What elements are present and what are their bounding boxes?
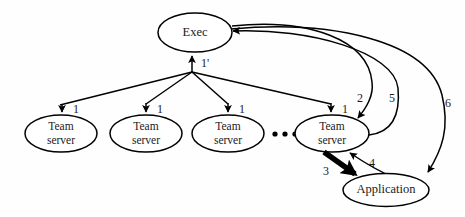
ellipsis-dot-1 — [272, 131, 277, 136]
node-team-server-3[interactable]: Team server — [192, 115, 264, 152]
edge-1-prime: 1' — [192, 56, 209, 72]
diagram-canvas: 6 5 2 1' 1 1 1 — [0, 0, 465, 217]
node-exec[interactable]: Exec — [158, 13, 232, 52]
edge-1-a-line — [60, 72, 192, 105]
team-server-2-label-line1: Team — [133, 120, 158, 132]
edge-label-3: 3 — [323, 164, 329, 178]
ellipsis-icon — [272, 131, 297, 136]
architecture-diagram: 6 5 2 1' 1 1 1 — [0, 0, 465, 217]
team-server-4-label-line2: server — [318, 134, 346, 146]
exec-label: Exec — [183, 25, 208, 39]
edge-label-2: 2 — [357, 91, 363, 105]
team-server-2-label-line2: server — [132, 134, 160, 146]
edge-1-d: 1 — [192, 72, 348, 116]
edge-label-1-prime: 1' — [201, 56, 209, 70]
node-team-server-4[interactable]: Team server — [295, 115, 369, 152]
node-team-server-1[interactable]: Team server — [25, 115, 97, 152]
edge-1-b-line — [146, 72, 192, 104]
edge-label-5: 5 — [389, 91, 395, 105]
node-team-server-2[interactable]: Team server — [110, 115, 182, 152]
team-server-3-label-line1: Team — [215, 120, 240, 132]
edge-label-1-a: 1 — [73, 102, 79, 116]
edge-2: 2 — [232, 24, 372, 118]
node-application[interactable]: Application — [343, 174, 429, 207]
edge-1-a: 1 — [60, 72, 192, 116]
edge-label-1-c: 1 — [239, 102, 245, 116]
team-server-1-label-line1: Team — [48, 120, 73, 132]
team-server-1-label-line2: server — [47, 134, 75, 146]
ellipsis-dot-2 — [282, 131, 287, 136]
team-server-4-label-line1: Team — [319, 120, 344, 132]
edge-label-1-d: 1 — [342, 102, 348, 116]
edge-3: 3 — [323, 152, 355, 178]
edge-label-6: 6 — [445, 96, 451, 110]
team-server-3-label-line2: server — [214, 134, 242, 146]
edge-2-path — [232, 24, 372, 118]
edge-1-d-line — [192, 72, 331, 104]
application-label: Application — [356, 182, 416, 196]
edge-label-4: 4 — [369, 156, 375, 170]
edge-label-1-b: 1 — [157, 102, 163, 116]
edge-1-b: 1 — [146, 72, 192, 116]
